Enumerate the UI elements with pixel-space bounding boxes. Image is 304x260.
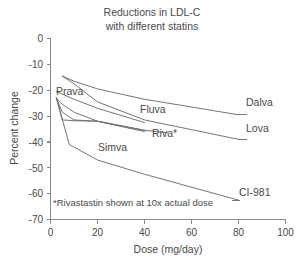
y-tick-label-4: -40	[29, 137, 44, 148]
x-tick-label-4: 80	[233, 227, 245, 238]
series-label-dalva: Dalva	[246, 96, 273, 108]
series-label-fluva: Fluva	[140, 103, 166, 115]
series-lines-group	[56, 76, 238, 200]
y-tick-label-7: -70	[29, 214, 44, 225]
series-label-lova: Lova	[246, 122, 269, 134]
x-tick-label-2: 40	[139, 227, 151, 238]
y-tick-labels: 0 -10 -20 -30 -40 -50 -60 -70	[29, 33, 44, 225]
x-tick-label-5: 100	[277, 227, 294, 238]
x-tick-label-1: 20	[92, 227, 104, 238]
chart-canvas: Reductions in LDL-C with different stati…	[0, 0, 304, 260]
y-tick-label-2: -20	[29, 85, 44, 96]
series-label-prava: Prava	[56, 85, 84, 97]
x-axis-title: Dose (mg/day)	[134, 243, 203, 255]
y-tick-label-3: -30	[29, 111, 44, 122]
y-tick-label-5: -50	[29, 163, 44, 174]
series-label-ci981: CI-981	[239, 186, 271, 198]
y-axis-title: Percent change	[8, 91, 20, 165]
series-labels: Prava Fluva Dalva Riva* Lova Simva CI-98…	[56, 85, 273, 198]
footnote-annotation: *Rivastastin shown at 10x actual dose	[53, 197, 213, 208]
y-tick-label-6: -60	[29, 188, 44, 199]
x-tick-label-3: 60	[186, 227, 198, 238]
x-tick-label-0: 0	[48, 227, 54, 238]
chart-title-line-2: with different statins	[105, 20, 199, 32]
chart-title-line-1: Reductions in LDL-C	[104, 6, 201, 18]
series-label-simva: Simva	[98, 141, 127, 153]
ldl-c-statin-line-chart: Reductions in LDL-C with different stati…	[0, 0, 304, 260]
y-tick-label-1: -10	[29, 59, 44, 70]
x-tick-labels: 0 20 40 60 80 100	[48, 227, 295, 238]
series-label-riva: Riva*	[152, 127, 177, 139]
y-tick-label-0: 0	[37, 33, 43, 44]
